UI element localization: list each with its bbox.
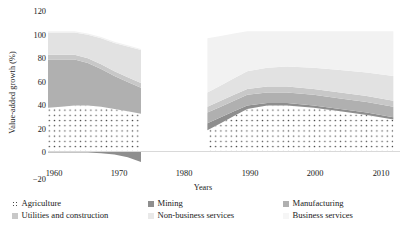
legend-label: Manufacturing <box>293 198 344 209</box>
legend-swatch-icon <box>283 201 289 207</box>
legend-item-utilities-and-construction: Utilities and construction <box>12 210 108 221</box>
legend-swatch-icon <box>283 213 289 219</box>
legend-item-manufacturing: Manufacturing <box>283 198 344 209</box>
x-tick-label: 1990 <box>230 170 270 178</box>
legend-item-business-services: Business services <box>283 210 353 221</box>
legend-label: Mining <box>158 198 183 209</box>
legend-item-non-business-services: Non-business services <box>148 210 234 221</box>
legend-swatch-icon <box>12 213 18 219</box>
x-tick-label: 1980 <box>164 170 204 178</box>
legend-label: Utilities and construction <box>22 210 109 221</box>
legend-label: Non-business services <box>158 210 235 221</box>
legend-swatch-icon <box>148 213 154 219</box>
legend-item-mining: Mining <box>148 198 183 209</box>
legend-label: Agriculture <box>22 198 62 209</box>
x-axis-title: Years <box>0 183 406 192</box>
x-tick-label: 2010 <box>361 170 401 178</box>
x-tick-label: 1960 <box>34 170 74 178</box>
legend-swatch-icon <box>148 201 154 207</box>
chart-legend: Agriculture Utilities and construction M… <box>12 198 404 228</box>
stacked-area-chart: Value-added growth (%) 120 100 80 60 40 … <box>0 0 406 236</box>
legend-swatch-icon <box>12 201 18 207</box>
x-tick-label: 2000 <box>295 170 335 178</box>
legend-label: Business services <box>293 210 353 221</box>
x-tick-label: 1970 <box>99 170 139 178</box>
legend-item-agriculture: Agriculture <box>12 198 61 209</box>
